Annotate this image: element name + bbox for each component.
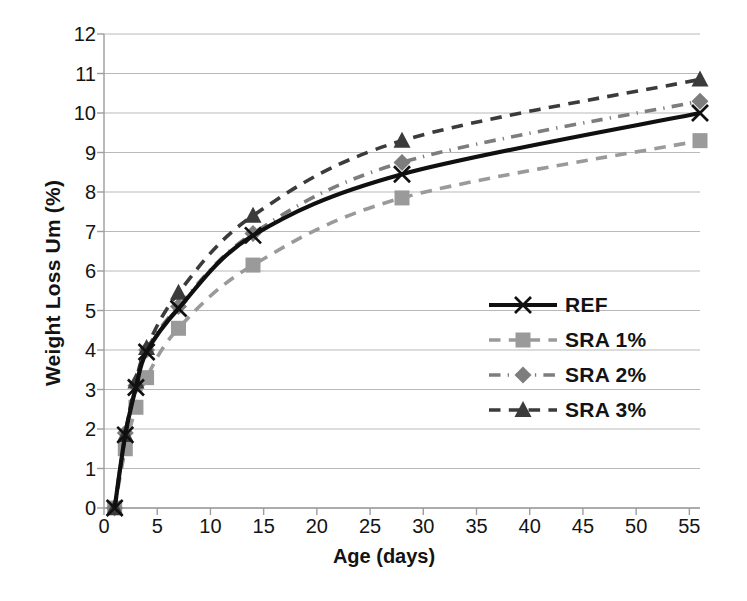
x-tick-label: 5	[134, 516, 180, 536]
data-point-square	[395, 190, 410, 205]
data-point-triangle	[245, 207, 262, 223]
data-point-triangle	[692, 70, 709, 86]
legend-line-sra-2	[487, 364, 559, 386]
x-tick-label: 50	[613, 516, 659, 536]
data-point-diamond	[515, 366, 532, 383]
data-point-square	[171, 321, 186, 336]
axis-ticks	[97, 34, 689, 515]
x-tick-label: 30	[400, 516, 446, 536]
data-point-triangle	[170, 284, 187, 300]
x-tick-label: 0	[81, 516, 127, 536]
x-axis-title: Age (days)	[104, 545, 664, 568]
legend-line-sra-3	[487, 399, 559, 421]
x-tick-label: 45	[560, 516, 606, 536]
x-tick-label: 25	[347, 516, 393, 536]
data-point-square	[693, 133, 708, 148]
legend-item-sra-3: SRA 3%	[487, 392, 702, 427]
legend-item-sra-1: SRA 1%	[487, 322, 702, 357]
legend-swatch-ref	[487, 294, 559, 316]
data-point-triangle	[394, 132, 411, 148]
legend-label-ref: REF	[565, 293, 608, 317]
legend-label-sra-2: SRA 2%	[565, 363, 647, 387]
x-tick-label: 10	[187, 516, 233, 536]
x-tick-label: 55	[666, 516, 712, 536]
legend-label-sra-3: SRA 3%	[565, 398, 647, 422]
legend-swatch-sra-3	[487, 399, 559, 421]
x-tick-label: 40	[507, 516, 553, 536]
legend-swatch-sra-1	[487, 329, 559, 351]
chart-legend: REF SRA 1% SRA 2% SRA 3%	[487, 287, 702, 427]
x-tick-label: 15	[241, 516, 287, 536]
data-point-square	[516, 332, 531, 347]
legend-line-sra-1	[487, 329, 559, 351]
x-tick-label: 35	[454, 516, 500, 536]
legend-item-ref: REF	[487, 287, 702, 322]
chart-container: Weight Loss Um (%) 0123456789101112 0510…	[0, 0, 747, 601]
x-axis-tick-labels: 0510152025303540455055	[0, 516, 747, 546]
gridlines	[104, 34, 700, 508]
legend-item-sra-2: SRA 2%	[487, 357, 702, 392]
x-tick-label: 20	[294, 516, 340, 536]
legend-swatch-sra-2	[487, 364, 559, 386]
legend-label-sra-1: SRA 1%	[565, 328, 647, 352]
data-point-square	[246, 258, 261, 273]
legend-line-ref	[487, 294, 559, 316]
